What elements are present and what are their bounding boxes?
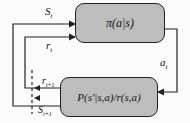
environment-box: P(s'|s,a)/r(s,a)	[60, 77, 158, 117]
policy-label: π(a|s)	[106, 16, 134, 31]
state-t-label: St	[45, 6, 52, 20]
action-t-label: at	[160, 57, 167, 71]
reward-t-label: rt	[46, 40, 52, 54]
environment-label: P(s'|s,a)/r(s,a)	[77, 91, 140, 103]
policy-box: π(a|s)	[75, 3, 165, 43]
state-t1-label: St+1	[38, 105, 52, 117]
reward-t1-label: rt+1	[42, 76, 55, 88]
